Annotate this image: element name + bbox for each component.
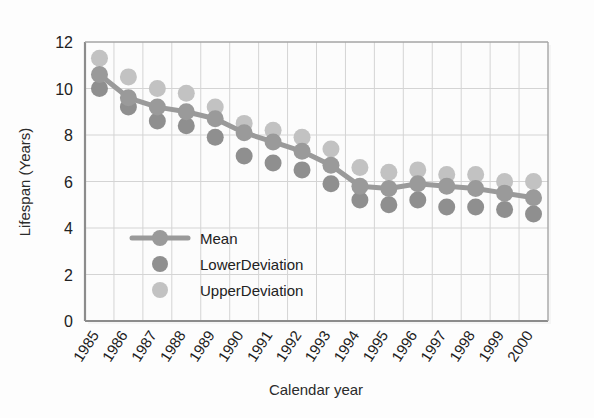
data-point-upperdeviation xyxy=(149,80,166,97)
data-point-mean xyxy=(265,133,282,150)
y-tick-label: 8 xyxy=(64,127,73,144)
legend-marker-mean xyxy=(152,230,168,246)
data-point-lowerdeviation xyxy=(438,199,455,216)
x-tick-label: 1989 xyxy=(185,327,217,364)
x-tick-label: 1993 xyxy=(301,327,333,364)
data-point-upperdeviation xyxy=(91,50,108,67)
x-tick-label: 1987 xyxy=(127,327,159,364)
x-axis-title: Calendar year xyxy=(269,381,363,398)
x-tick-label: 1985 xyxy=(70,327,102,364)
data-point-mean xyxy=(207,110,224,127)
data-point-mean xyxy=(91,66,108,83)
data-point-mean xyxy=(322,157,339,174)
data-point-upperdeviation xyxy=(380,164,397,181)
legend-label-upperdeviation: UpperDeviation xyxy=(200,282,303,299)
data-point-mean xyxy=(294,143,311,160)
data-point-lowerdeviation xyxy=(409,192,426,209)
data-point-lowerdeviation xyxy=(467,199,484,216)
y-tick-label: 2 xyxy=(64,267,73,284)
data-point-mean xyxy=(120,89,137,106)
x-tick-label: 1998 xyxy=(446,327,478,364)
y-tick-labels: 024681012 xyxy=(55,34,73,330)
y-tick-label: 0 xyxy=(64,313,73,330)
x-tick-label: 1991 xyxy=(243,327,275,364)
data-point-lowerdeviation xyxy=(380,196,397,213)
legend-marker-lowerdeviation xyxy=(152,256,168,272)
data-point-mean xyxy=(236,124,253,141)
lifespan-scatter-line-chart: 024681012 198519861987198819891990199119… xyxy=(0,0,594,418)
x-tick-label: 1999 xyxy=(475,327,507,364)
x-tick-label: 1996 xyxy=(388,327,420,364)
legend-label-lowerdeviation: LowerDeviation xyxy=(200,256,303,273)
data-point-mean xyxy=(496,185,513,202)
y-tick-label: 4 xyxy=(64,220,73,237)
x-tick-label: 2000 xyxy=(504,327,536,364)
data-point-lowerdeviation xyxy=(496,201,513,218)
data-point-lowerdeviation xyxy=(236,147,253,164)
data-point-mean xyxy=(178,103,195,120)
data-point-mean xyxy=(149,99,166,116)
data-point-lowerdeviation xyxy=(322,175,339,192)
data-point-upperdeviation xyxy=(351,159,368,176)
x-tick-label: 1994 xyxy=(330,327,362,364)
data-point-upperdeviation xyxy=(322,140,339,157)
data-point-mean xyxy=(380,180,397,197)
data-point-upperdeviation xyxy=(525,173,542,190)
y-axis-title: Lifespan (Years) xyxy=(16,128,33,237)
x-tick-label: 1997 xyxy=(417,327,449,364)
data-point-mean xyxy=(438,178,455,195)
data-point-mean xyxy=(525,189,542,206)
y-tick-label: 12 xyxy=(55,34,73,51)
data-point-mean xyxy=(351,178,368,195)
x-tick-labels: 1985198619871988198919901991199219931994… xyxy=(70,327,536,364)
x-tick-label: 1986 xyxy=(98,327,130,364)
x-tick-label: 1988 xyxy=(156,327,188,364)
data-point-mean xyxy=(409,175,426,192)
data-point-lowerdeviation xyxy=(207,129,224,146)
data-point-lowerdeviation xyxy=(525,206,542,223)
legend-label-mean: Mean xyxy=(200,230,238,247)
x-tick-label: 1995 xyxy=(359,327,391,364)
data-point-upperdeviation xyxy=(120,68,137,85)
y-tick-label: 6 xyxy=(64,174,73,191)
data-point-mean xyxy=(467,180,484,197)
x-tick-label: 1992 xyxy=(272,327,304,364)
legend-marker-upperdeviation xyxy=(152,282,168,298)
y-tick-label: 10 xyxy=(55,81,73,98)
chart-container: 024681012 198519861987198819891990199119… xyxy=(0,0,594,418)
data-point-lowerdeviation xyxy=(294,161,311,178)
x-tick-label: 1990 xyxy=(214,327,246,364)
data-point-upperdeviation xyxy=(178,85,195,102)
data-point-lowerdeviation xyxy=(265,154,282,171)
